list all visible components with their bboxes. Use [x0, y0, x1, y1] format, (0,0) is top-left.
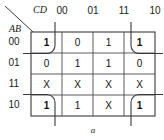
- kmap-cell-r3c2[interactable]: X: [105, 100, 112, 111]
- row-header-3: 10: [8, 99, 20, 110]
- kmap-cell-r2c1[interactable]: X: [74, 79, 81, 90]
- kmap-cell-r2c2[interactable]: X: [105, 79, 112, 90]
- kmap-cell-r2c0[interactable]: X: [43, 79, 50, 90]
- kmap-cell-r1c2[interactable]: 1: [106, 58, 112, 69]
- kmap-canvas: CD 00 01 11 10 AB 00 01 11 10 1 0: [0, 0, 164, 140]
- row-header-2: 11: [9, 78, 20, 89]
- column-header-0: 00: [56, 5, 68, 16]
- kmap-cell-r1c0[interactable]: 0: [44, 58, 50, 69]
- kmap-cell-r0c0[interactable]: 1: [44, 37, 50, 48]
- column-variable-label: CD: [33, 4, 48, 15]
- kmap-cell-r2c3[interactable]: X: [136, 79, 143, 90]
- column-header-3: 10: [149, 5, 161, 16]
- kmap-figure: CD 00 01 11 10 AB 00 01 11 10 1 0: [0, 0, 164, 140]
- row-variable-label: AB: [8, 23, 21, 34]
- kmap-cell-r0c1[interactable]: 0: [75, 37, 81, 48]
- column-header-1: 01: [87, 5, 99, 16]
- kmap-cell-r3c0[interactable]: 1: [44, 100, 50, 111]
- column-header-2: 11: [119, 5, 130, 16]
- kmap-cell-r3c1[interactable]: 1: [75, 100, 81, 111]
- kmap-cell-r1c3[interactable]: 0: [137, 58, 143, 69]
- kmap-cell-r0c3[interactable]: 1: [137, 37, 143, 48]
- kmap-cell-r3c3[interactable]: 1: [137, 100, 143, 111]
- kmap-cell-r0c2[interactable]: 1: [106, 37, 112, 48]
- row-header-1: 01: [8, 57, 20, 68]
- row-header-0: 00: [8, 36, 20, 47]
- kmap-cell-r1c1[interactable]: 1: [75, 58, 81, 69]
- corner-loop-bottom-left: [23, 95, 55, 127]
- figure-caption-label: a: [91, 125, 96, 135]
